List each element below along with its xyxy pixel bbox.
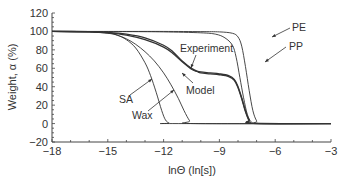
annotation-label-model: Model [186,84,215,96]
y-tick-label: 40 [36,81,48,93]
annotation-arrow-pp [265,47,286,62]
annotation-label-experiment: Experiment [180,42,233,54]
x-tick-label: −3 [325,145,338,157]
y-tick-label: 0 [42,118,48,130]
annotation-label-wax: Wax [132,109,153,121]
y-tick-label: 20 [36,99,48,111]
annotation-label-sa: SA [119,93,133,105]
annotations: PEPPExperimentModelSAWax [119,21,306,121]
y-tick-label: −20 [29,136,48,148]
y-axis-label: Weight, α (%) [6,44,18,111]
y-tick-label: 60 [36,62,48,74]
annotation-label-pp: PP [289,40,303,52]
annotation-label-pe: PE [292,21,306,33]
y-tick-label: 120 [30,7,48,19]
x-axis-label: lnΘ (ln[s]) [168,164,216,176]
x-tick-label: −9 [213,145,226,157]
annotation-arrowhead-pp [265,59,269,62]
chart: −18−15−12−9−6−3−20020406080100120 PEPPEx… [0,0,346,183]
y-tick-label: 100 [30,25,48,37]
x-tick-label: −15 [98,145,117,157]
annotation-arrowhead-sa [148,79,152,82]
annotation-arrow-sa [130,79,152,95]
y-tick-label: 80 [36,44,48,56]
x-tick-label: −12 [154,145,173,157]
annotation-arrowhead-experiment [191,64,194,68]
x-tick-label: −6 [269,145,282,157]
